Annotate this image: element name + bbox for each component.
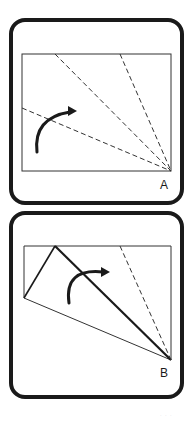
folded-flap-edge bbox=[24, 298, 171, 360]
panel-a: A bbox=[0, 0, 194, 210]
panel-a-label: A bbox=[160, 178, 168, 192]
fold-crease-bold bbox=[55, 246, 171, 360]
frame-a bbox=[11, 20, 182, 203]
arrowhead-icon-b bbox=[101, 267, 110, 277]
footer-artifact: · · · bbox=[160, 412, 173, 418]
arrowhead-icon bbox=[68, 106, 77, 116]
frame-b bbox=[11, 213, 182, 397]
panel-a-diagram bbox=[0, 0, 194, 421]
folded-flap-top-edge bbox=[24, 246, 55, 298]
panel-b-label: B bbox=[160, 366, 168, 380]
dashed-fold-line-2 bbox=[120, 54, 171, 171]
fold-arrow-icon bbox=[37, 112, 70, 152]
paper-sheet-a bbox=[22, 54, 171, 171]
dashed-fold-line-3 bbox=[22, 108, 171, 171]
dashed-fold-line-b bbox=[120, 246, 171, 360]
